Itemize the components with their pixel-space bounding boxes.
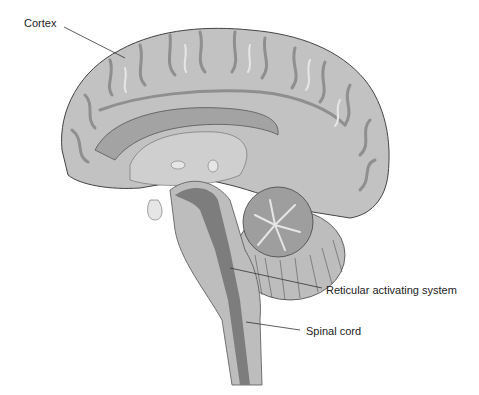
label-cortex: Cortex [24,17,56,29]
pituitary [148,200,162,220]
brain-diagram [0,0,479,395]
label-spinal-cord: Spinal cord [306,325,361,337]
cortex-leader [64,27,125,58]
label-reticular-activating-system: Reticular activating system [326,284,457,296]
